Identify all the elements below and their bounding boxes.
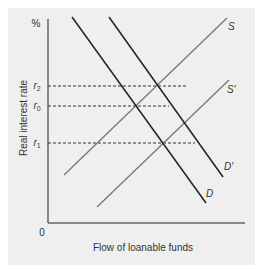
d-prime-label: D′ (224, 161, 234, 172)
d-label: D (206, 188, 213, 199)
r2-label: r2 (33, 80, 40, 92)
r1-label: r1 (33, 137, 40, 149)
x-axis-title: Flow of loanable funds (93, 242, 193, 253)
s-prime-label: S′ (227, 84, 237, 95)
y-axis-title: Real interest rate (18, 79, 29, 156)
demand-curve-d (72, 17, 206, 203)
r0-label: r0 (33, 100, 40, 112)
s-label: S (228, 21, 235, 32)
supply-curve-s (64, 18, 227, 175)
origin-label: 0 (39, 227, 45, 238)
percent-label: % (32, 18, 41, 29)
demand-curve-d-prime (109, 17, 223, 177)
loanable-funds-chart: % 0 Flow of loanable funds Real interest… (0, 0, 273, 270)
